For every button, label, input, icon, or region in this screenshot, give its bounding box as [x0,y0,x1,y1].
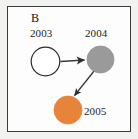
panel-letter-label: B [31,12,39,24]
node-circle-2004[interactable] [87,46,114,73]
node-circle-2005[interactable] [54,96,82,124]
transmission-diagram [0,0,138,139]
figure-panel: B 2003 2004 2005 [0,0,138,139]
edge-2004-to-2005 [75,71,95,96]
edge-2003-to-2004 [61,60,85,62]
node-circle-2003[interactable] [31,47,60,76]
node-label-2005: 2005 [84,106,106,117]
node-label-2003: 2003 [30,28,52,39]
node-label-2004: 2004 [85,28,107,39]
